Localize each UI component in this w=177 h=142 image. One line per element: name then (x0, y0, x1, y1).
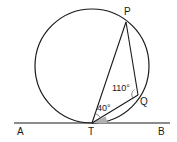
label-p: P (124, 6, 131, 17)
label-q: Q (140, 96, 148, 107)
angle-arc-pqt (132, 90, 135, 99)
geometry-diagram: P Q T A B 110° 40° (0, 0, 177, 142)
label-a: A (17, 126, 24, 137)
label-b: B (158, 126, 165, 137)
circle (35, 9, 149, 123)
angle-label-pqt: 110° (112, 83, 130, 93)
angle-label-ptq: 40° (97, 103, 111, 113)
label-t: T (88, 126, 94, 137)
angle-arc-ptq (95, 114, 100, 118)
